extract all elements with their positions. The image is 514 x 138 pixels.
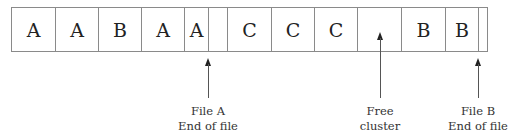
cluster-strip: A A B A A C C C B B bbox=[11, 7, 488, 52]
arrow-line bbox=[380, 38, 381, 98]
label-line: File B bbox=[448, 104, 508, 119]
label-line: End of file bbox=[448, 119, 508, 134]
label-line: File A bbox=[178, 104, 238, 119]
label-line: End of file bbox=[178, 119, 238, 134]
cluster-cell: A bbox=[142, 8, 185, 51]
label-line: Free bbox=[360, 104, 400, 119]
free-cluster-label: Free cluster bbox=[360, 104, 400, 134]
slack-space bbox=[479, 8, 487, 51]
cluster-cell: B bbox=[99, 8, 142, 51]
cluster-cell: A bbox=[12, 8, 56, 51]
label-line: cluster bbox=[360, 119, 400, 134]
cluster-cell: B bbox=[402, 8, 446, 51]
cluster-cell-partial: B bbox=[446, 8, 479, 51]
cluster-cell: C bbox=[315, 8, 358, 51]
file-b-eof-label: File B End of file bbox=[448, 104, 508, 134]
arrow-line bbox=[208, 64, 209, 98]
file-a-eof-label: File A End of file bbox=[178, 104, 238, 134]
cluster-cell: A bbox=[56, 8, 99, 51]
cluster-cell: C bbox=[272, 8, 315, 51]
cluster-cell-partial: A bbox=[185, 8, 209, 51]
arrow-line bbox=[478, 64, 479, 98]
cluster-cell: C bbox=[228, 8, 272, 51]
slack-space bbox=[209, 8, 228, 51]
